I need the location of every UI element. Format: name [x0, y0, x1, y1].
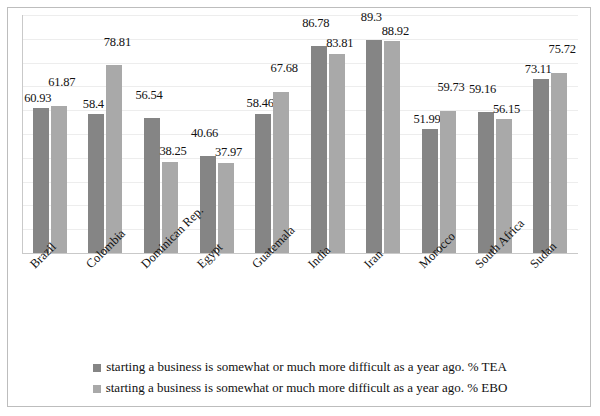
bar[interactable]: [311, 46, 327, 253]
bar[interactable]: [551, 73, 567, 253]
bar-data-label: 88.92: [376, 25, 414, 38]
bar-group: 40.6637.97: [198, 15, 236, 253]
bar-series-layer: 60.9361.8758.478.8156.5438.2540.6637.975…: [22, 15, 578, 254]
bar-data-label: 56.54: [130, 89, 168, 102]
bar-group: 59.1656.15: [476, 15, 514, 253]
bar-data-label: 61.87: [43, 76, 81, 89]
bar-data-label: 78.81: [98, 36, 136, 49]
bar[interactable]: [422, 129, 438, 253]
bar-data-label: 37.97: [210, 146, 248, 159]
bar-data-label: 83.81: [321, 37, 359, 50]
chart-frame: 60.9361.8758.478.8156.5438.2540.6637.975…: [7, 7, 591, 407]
legend-item[interactable]: starting a business is somewhat or much …: [8, 356, 592, 377]
bar[interactable]: [88, 114, 104, 253]
bar-group: 89.388.92: [364, 15, 402, 253]
bar[interactable]: [533, 79, 549, 253]
bar[interactable]: [33, 108, 49, 253]
bar-group: 60.9361.87: [31, 15, 69, 253]
legend-item-label: starting a business is somewhat or much …: [106, 360, 507, 373]
bar-group: 73.1175.72: [531, 15, 569, 253]
bar[interactable]: [200, 156, 216, 253]
bar[interactable]: [106, 65, 122, 253]
chart-legend: starting a business is somewhat or much …: [8, 356, 592, 398]
bar[interactable]: [218, 163, 234, 253]
x-axis-category-labels: BrazilColombiaDominican Rep.EgyptGuatema…: [22, 254, 578, 349]
bar[interactable]: [144, 118, 160, 253]
bar[interactable]: [51, 106, 67, 253]
bar-group: 51.9959.73: [420, 15, 458, 253]
bar[interactable]: [384, 41, 400, 253]
bar-data-label: 75.72: [543, 43, 581, 56]
legend-swatch-icon: [93, 385, 101, 393]
bar-group: 58.4667.68: [253, 15, 291, 253]
plot-area: 60.9361.8758.478.8156.5438.2540.6637.975…: [22, 15, 578, 254]
bar-group: 58.478.81: [86, 15, 124, 253]
bar-data-label: 86.78: [297, 17, 335, 30]
bar[interactable]: [366, 40, 382, 253]
bar-data-label: 59.16: [464, 83, 502, 96]
bar-data-label: 60.93: [19, 92, 57, 105]
bar-data-label: 56.15: [488, 103, 526, 116]
bar[interactable]: [478, 112, 494, 253]
bar-group: 56.5438.25: [142, 15, 180, 253]
bar-group: 86.7883.81: [309, 15, 347, 253]
legend-swatch-icon: [93, 364, 101, 372]
bar-data-label: 67.68: [265, 62, 303, 75]
bar-data-label: 89.3: [352, 11, 390, 24]
legend-item-label: starting a business is somewhat or much …: [106, 381, 508, 394]
bar[interactable]: [255, 114, 271, 253]
legend-item[interactable]: starting a business is somewhat or much …: [8, 377, 592, 398]
bar-data-label: 40.66: [186, 127, 224, 140]
bar[interactable]: [329, 54, 345, 253]
bar-data-label: 38.25: [154, 145, 192, 158]
